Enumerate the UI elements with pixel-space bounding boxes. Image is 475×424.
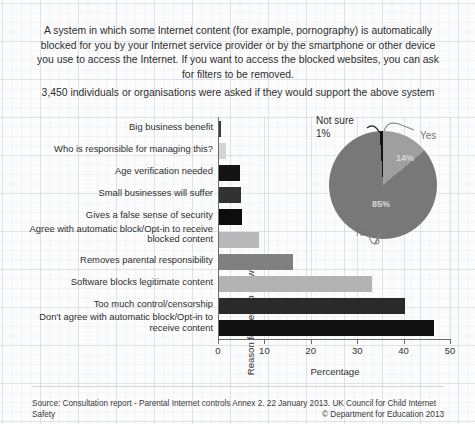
bar-row[interactable]: Don't agree with automatic block/Opt-in …: [219, 317, 451, 339]
bar-category-label: Agree with automatic block/Opt-in to rec…: [27, 224, 213, 245]
bar-row[interactable]: Too much control/censorship: [219, 295, 451, 317]
x-tick-label-0: 0: [203, 345, 233, 356]
bar-category-label: Age verification needed: [27, 166, 213, 177]
bar-category-label: Big business benefit: [27, 122, 213, 133]
bar-category-label: Gives a false sense of security: [27, 210, 213, 221]
bar-row[interactable]: Software blocks legitimate content: [219, 273, 451, 295]
x-tick-30: [357, 339, 358, 344]
x-tick-label-10: 10: [249, 345, 279, 356]
bar[interactable]: [219, 298, 405, 314]
x-tick-10: [264, 339, 265, 344]
footer-copyright: © Department for Education 2013: [32, 409, 444, 420]
pie-chart: [329, 131, 437, 239]
bar[interactable]: [219, 187, 241, 203]
bar-category-label: Who is responsible for managing this?: [27, 144, 213, 155]
bar[interactable]: [219, 232, 259, 248]
x-axis-label: Percentage: [250, 366, 420, 377]
x-tick-40: [404, 339, 405, 344]
bar-row[interactable]: Agree with automatic block/Opt-in to rec…: [219, 229, 451, 251]
x-tick-20: [311, 339, 312, 344]
bar[interactable]: [219, 143, 226, 159]
pie-label-not-sure: Not sure 1%: [316, 115, 354, 140]
pie-value-no: 85%: [372, 199, 390, 209]
x-tick-label-40: 40: [389, 345, 419, 356]
x-tick-label-50: 50: [435, 345, 465, 356]
bar[interactable]: [219, 209, 242, 225]
footer-divider: [32, 386, 444, 387]
bar-category-label: Too much control/censorship: [27, 299, 213, 310]
bar[interactable]: [219, 165, 240, 181]
x-tick-label-20: 20: [296, 345, 326, 356]
x-tick-50: [450, 339, 451, 344]
pie-label-no: No: [356, 227, 369, 238]
pie-value-yes: 14%: [396, 153, 414, 163]
bar[interactable]: [219, 121, 221, 137]
pie-value-not-sure: 1%: [316, 128, 330, 139]
bar-row[interactable]: Removes parental responsibility: [219, 251, 451, 273]
x-tick-0: [218, 339, 219, 344]
bar-category-label: Don't agree with automatic block/Opt-in …: [27, 312, 213, 333]
bar[interactable]: [219, 320, 434, 336]
x-tick-label-30: 30: [342, 345, 372, 356]
bar[interactable]: [219, 254, 293, 270]
description-text: A system in which some Internet content …: [32, 24, 444, 82]
bar-category-label: Small businesses will suffer: [27, 188, 213, 199]
infographic-sheet: A system in which some Internet content …: [0, 0, 475, 424]
bar-category-label: Software blocks legitimate content: [27, 277, 213, 288]
pie-label-not-sure-text: Not sure: [316, 115, 354, 126]
pie-label-yes: Yes: [420, 130, 436, 141]
question-text: 3,450 individuals or organisations were …: [32, 86, 444, 100]
bar-category-label: Removes parental responsibility: [27, 255, 213, 266]
bar[interactable]: [219, 276, 372, 292]
